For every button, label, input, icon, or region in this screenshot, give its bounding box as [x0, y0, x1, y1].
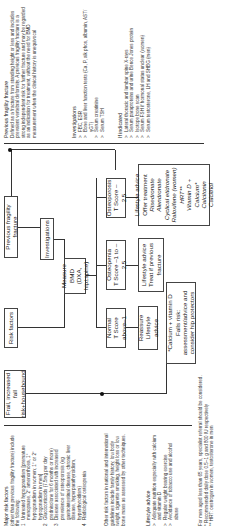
- drug: Risedronate: [148, 178, 155, 211]
- calcium-line: consider hip protectors: [188, 292, 195, 355]
- calcium-vitamin-d-box: *Calcium + vitamin D Falls risk: assessm…: [166, 282, 196, 364]
- treat-if-line: Lifestyle advice: [140, 244, 147, 286]
- osteoporosis-tscore: T Score –2.5: [112, 181, 127, 215]
- normal-label: Normal: [105, 318, 112, 338]
- normal-box: Normal T Score above–1: [106, 308, 126, 348]
- drug: Calcitonin: [200, 181, 207, 208]
- calcium-line: assessment/advice and: [181, 291, 188, 356]
- major-risk-factors-notes: Major risk factors (other than previous …: [4, 430, 88, 526]
- major-risk-item: Disease associated with increased preval…: [54, 430, 82, 526]
- osteoporosis-label: Osteoporosis: [105, 180, 112, 216]
- if-indicated-item: Serum testosterone, LH and SHBG (men): [146, 4, 152, 138]
- offer-line: Lifestyle advice: [133, 174, 140, 216]
- offer-treatment-box: Lifestyle advice Offer treatment Risedro…: [138, 164, 210, 226]
- previous-fracture-box: Previous fragility fracture: [4, 196, 18, 258]
- major-risk-item: Radiological osteopenia: [82, 430, 88, 526]
- investigations-note: Investigations FBC, ESR Bone and liver f…: [72, 4, 106, 138]
- lifestyle-advice-notes: Lifestyle advice Adequate nutrition espe…: [146, 430, 180, 526]
- connector: [54, 239, 64, 240]
- lifestyle-item: Adequate nutrition especially with calci…: [152, 430, 163, 526]
- connector: [166, 364, 167, 394]
- lifestyle-item: Avoidance of tobacco use and alcohol abu…: [168, 430, 179, 526]
- footnotes: For men aged less than 65 years, special…: [198, 316, 215, 526]
- connector: [115, 150, 116, 170]
- drug: Cyclical etidronate: [163, 170, 170, 221]
- risk-factors-box: Risk factors: [4, 308, 18, 348]
- connector: [18, 227, 40, 228]
- footnote: ** HRT: oestrogen in women, testosterone…: [209, 316, 215, 526]
- treat-if-line: fracture: [155, 255, 162, 276]
- connector: [126, 265, 138, 266]
- other-risk-factors-note: Other risk factors in national and inter…: [104, 430, 126, 526]
- treat-if-box: Lifestyle advice Treat if previous fract…: [138, 238, 164, 292]
- major-risk-item: Glucocorticoids (7.5mg per day prednisol…: [43, 430, 54, 526]
- investigation-item: Bone and liver function tests (Ca, P, al…: [83, 4, 94, 138]
- connector: [11, 149, 115, 150]
- divider: [4, 143, 204, 144]
- drug: Vitamin D + Calcium*: [185, 167, 200, 223]
- major-risk-item: Untreated hypogonadism [premature menopa…: [21, 430, 43, 526]
- major-risk-intro: (other than previous fragility fracture)…: [10, 430, 21, 526]
- osteopenia-label: Osteopenia: [105, 249, 112, 281]
- reassure-line: Reassure: [137, 315, 144, 341]
- drug: HRT**: [178, 186, 185, 203]
- connector: [11, 150, 12, 196]
- measure-bmd-line: (DXA, hip±spine): [75, 261, 90, 291]
- treat-if-line: Treat if previous: [147, 243, 154, 287]
- connector-dot: [8, 148, 12, 152]
- osteoporosis-box: Osteoporosis T Score –2.5: [106, 178, 126, 218]
- measure-bmd-line: Measure BMD: [60, 261, 75, 291]
- reassure-box: Reassure Lifestyle advice: [138, 306, 158, 350]
- normal-tscore: T Score above–1: [112, 311, 127, 345]
- if-indicated-note: If indicated Lateral thoracic and lumbar…: [118, 4, 152, 138]
- drug: Raloxifene (women): [170, 167, 177, 222]
- offer-line: Offer treatment: [141, 174, 148, 216]
- rotated-flowchart-page: Major risk factors (other than previous …: [0, 0, 237, 530]
- frail-box: Frail, increased fall risk+housebound: [4, 370, 26, 418]
- reassure-line: Lifestyle advice: [144, 309, 159, 347]
- drug: Alendronate: [155, 178, 162, 211]
- fracture-definition-note: Previous fragility fracture Defined as a…: [4, 4, 38, 138]
- calcium-line: *Calcium + vitamin D: [166, 294, 173, 352]
- connector: [18, 327, 64, 328]
- divider: [4, 425, 192, 426]
- connector: [64, 288, 65, 328]
- connector: [86, 275, 96, 276]
- connector: [26, 393, 166, 394]
- osteopenia-tscore: T Score –1 to –2.5: [112, 243, 127, 287]
- connector-dot: [100, 392, 104, 396]
- measure-bmd-box: Measure BMD (DXA, hip±spine): [64, 258, 86, 294]
- investigation-item: Serum TSH: [100, 4, 106, 138]
- drug: Calcitriol: [207, 183, 214, 207]
- investigations-box: Investigations: [40, 218, 54, 260]
- connector: [96, 178, 97, 328]
- calcium-line: Falls risk:: [174, 310, 181, 336]
- osteopenia-box: Osteopenia T Score –1 to –2.5: [106, 240, 126, 290]
- fracture-def-text: Defined as a fracture from standing heig…: [10, 4, 38, 138]
